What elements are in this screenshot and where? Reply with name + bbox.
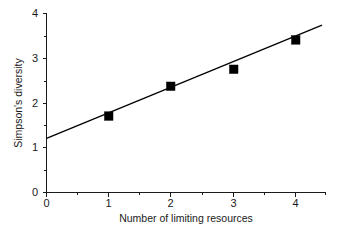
x-axis-title: Number of limiting resources: [119, 212, 253, 224]
data-point: [105, 112, 114, 121]
y-tick-label-3: 3: [32, 52, 38, 64]
chart-figure: 0 1 2 3 4 0 1 2 3 4 Number of limiting r…: [0, 0, 345, 235]
data-point: [230, 65, 239, 74]
x-tick-label-3: 3: [230, 197, 236, 209]
trend-line: [47, 25, 323, 138]
data-point: [167, 82, 176, 91]
y-tick-label-1: 1: [32, 141, 38, 153]
x-tick-label-0: 0: [43, 197, 49, 209]
x-tick-label-1: 1: [105, 197, 111, 209]
data-point: [292, 36, 301, 45]
y-tick-label-0: 0: [32, 186, 38, 198]
y-tick-label-2: 2: [32, 97, 38, 109]
x-tick-label-4: 4: [292, 197, 298, 209]
y-axis-major-ticks: [43, 14, 47, 193]
x-tick-label-2: 2: [167, 197, 173, 209]
y-tick-label-4: 4: [32, 7, 38, 19]
y-axis-title: Simpson's diversity: [12, 57, 24, 147]
data-markers: [105, 36, 301, 121]
scatter-plot: 0 1 2 3 4 0 1 2 3 4 Number of limiting r…: [0, 0, 345, 235]
x-axis-major-ticks: [47, 193, 296, 197]
